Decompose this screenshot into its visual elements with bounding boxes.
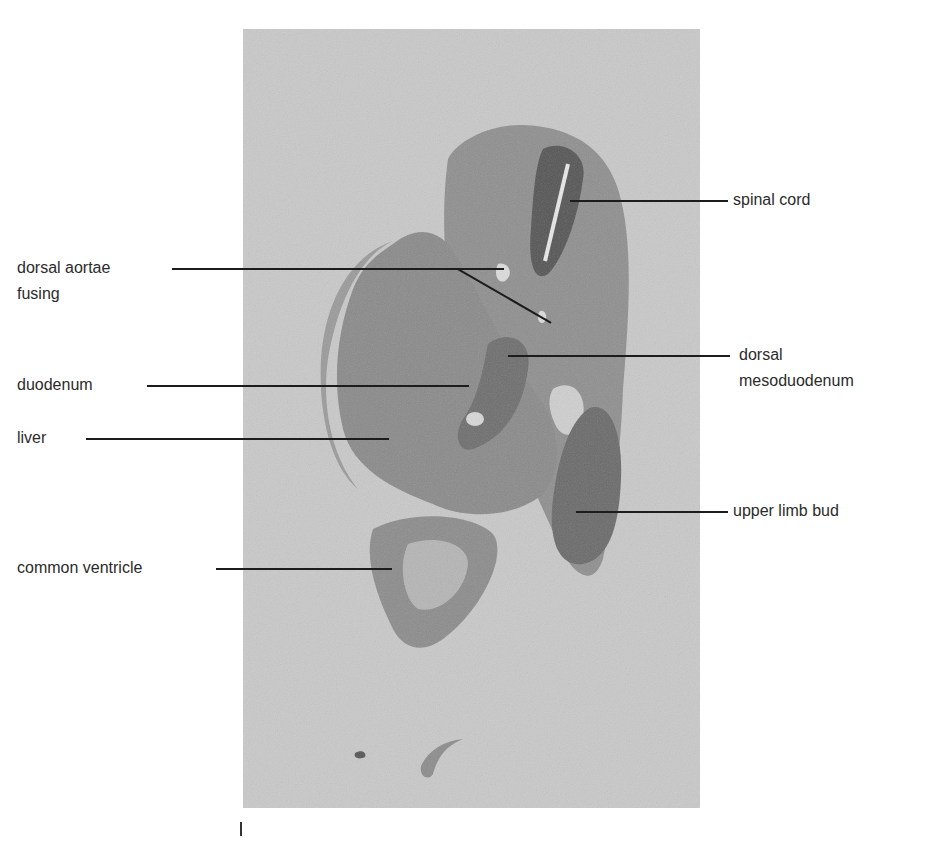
leader-line-upper-limb-bud [576,511,728,513]
leader-line-dorsal-aortae [172,268,504,270]
leader-line-common-ventricle [216,568,392,570]
leader-line-duodenum [147,385,469,387]
label-dorsal-aortae: dorsal aortae [17,258,110,278]
micrograph-panel [243,29,700,808]
label-dorsal-aortae-line2: fusing [17,284,60,304]
embryo-section-image [243,29,700,808]
label-duodenum: duodenum [17,375,93,395]
label-dorsal-mesoduodenum: dorsal [739,345,783,365]
label-spinal-cord: spinal cord [733,190,810,210]
label-common-ventricle: common ventricle [17,558,142,578]
scale-mark [240,822,242,836]
label-dorsal-mesoduodenum-line2: mesoduodenum [739,371,854,391]
label-upper-limb-bud: upper limb bud [733,501,839,521]
leader-line-spinal-cord [570,200,728,202]
label-liver: liver [17,428,46,448]
leader-line-dorsal-mesoduodenum [508,355,730,357]
leader-line-liver [86,438,389,440]
